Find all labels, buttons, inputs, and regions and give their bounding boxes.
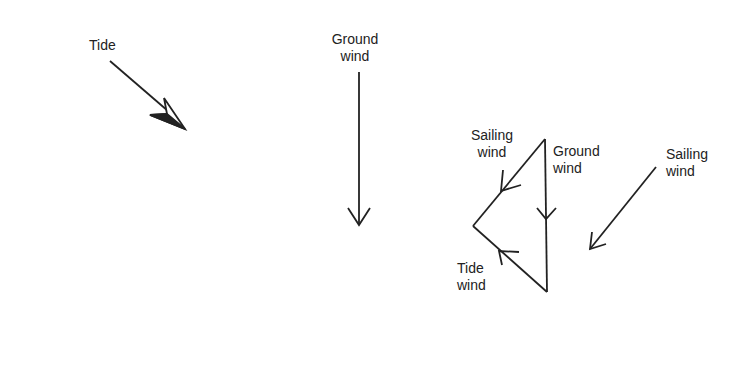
triangle-ground-wind-label: Ground wind: [553, 143, 600, 177]
triangle-sailing-wind-label: Sailing wind: [464, 127, 520, 161]
sailing-wind-label: Sailing wind: [666, 146, 708, 180]
triangle-tide-wind-label-line1: Tide: [457, 260, 486, 277]
ground-wind-label-line2: wind: [322, 48, 388, 65]
tide-arrow: [110, 61, 185, 129]
ground-wind-label: Ground wind: [322, 31, 388, 65]
triangle-tide-wind-label: Tide wind: [457, 260, 486, 294]
triangle-ground-wind-label-line1: Ground: [553, 143, 600, 160]
triangle-ground-wind-label-line2: wind: [553, 160, 600, 177]
tide-label: Tide: [89, 37, 116, 54]
ground-wind-label-line1: Ground: [322, 31, 388, 48]
triangle-sailing-wind-label-line2: wind: [464, 144, 520, 161]
sailing-wind-label-line1: Sailing: [666, 146, 708, 163]
sailing-wind-label-line2: wind: [666, 163, 708, 180]
sailing-wind-arrow: [590, 167, 656, 249]
ground-wind-arrow: [348, 72, 370, 225]
triangle-tide-wind-label-line2: wind: [457, 277, 486, 294]
triangle-sailing-wind-label-line1: Sailing: [464, 127, 520, 144]
